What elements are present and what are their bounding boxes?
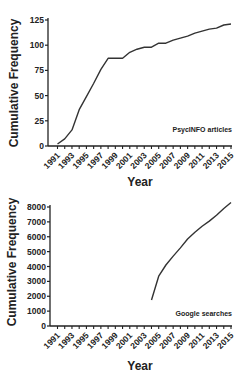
y-tick-label: 0 <box>39 141 44 151</box>
y-tick-label: 4000 <box>27 262 46 272</box>
y-tick-label: 6000 <box>27 232 46 242</box>
x-axis-title: Year <box>127 359 153 373</box>
series-annotation: PsycINFO articles <box>172 126 232 134</box>
y-tick-label: 3000 <box>27 276 46 286</box>
y-tick-label: 7000 <box>27 217 46 227</box>
y-tick-label: 25 <box>35 116 45 126</box>
google-searches-chart: 0100020003000400050006000700080001991199… <box>5 197 236 373</box>
y-tick-label: 5000 <box>27 247 46 257</box>
series-annotation: Google searches <box>176 310 233 318</box>
data-line <box>152 203 232 301</box>
y-tick-label: 8000 <box>27 202 46 212</box>
y-axis-title: Cumulative Frequency <box>5 197 19 326</box>
x-tick-label: 2015 <box>215 150 236 171</box>
psycinfo-chart: 0255075100125199119931995199719992001200… <box>7 15 236 189</box>
y-axis-title: Cumulative Frequency <box>7 18 21 147</box>
y-tick-label: 75 <box>35 65 45 75</box>
y-tick-label: 100 <box>30 40 44 50</box>
y-tick-label: 0 <box>41 321 46 331</box>
y-tick-label: 50 <box>35 91 45 101</box>
y-tick-label: 2000 <box>27 291 46 301</box>
x-axis-title: Year <box>127 175 153 189</box>
x-tick-label: 2015 <box>215 330 236 351</box>
y-tick-label: 1000 <box>27 306 46 316</box>
figure: 0255075100125199119931995199719992001200… <box>0 0 249 382</box>
y-tick-label: 125 <box>30 15 44 25</box>
